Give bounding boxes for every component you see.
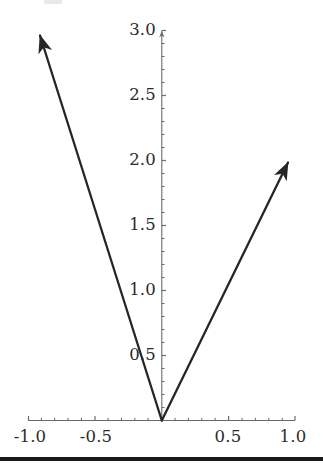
x-tick-label-0.5: 0.5 — [215, 429, 242, 446]
plot-area — [0, 0, 323, 475]
y-axis — [162, 31, 166, 421]
y-tick-label-1.5: 1.5 — [118, 217, 156, 234]
y-axis-major-ticks — [162, 31, 166, 356]
series-right-branch — [162, 163, 288, 421]
y-tick-label-3.0: 3.0 — [118, 22, 156, 39]
x-tick-label--1.0: -1.0 — [14, 429, 47, 446]
y-tick-label-2.5: 2.5 — [118, 87, 156, 104]
x-tick-label--0.5: -0.5 — [80, 429, 113, 446]
data-series — [40, 36, 288, 421]
y-tick-label-0.5: 0.5 — [118, 347, 156, 364]
y-tick-label-2.0: 2.0 — [118, 152, 156, 169]
page-bottom-rule — [0, 457, 323, 461]
x-tick-label-1.0: 1.0 — [280, 429, 307, 446]
figure-canvas: 3.0 2.5 2.0 1.5 1.0 0.5 -1.0 -0.5 0.5 1.… — [0, 0, 323, 475]
y-tick-label-1.0: 1.0 — [118, 282, 156, 299]
